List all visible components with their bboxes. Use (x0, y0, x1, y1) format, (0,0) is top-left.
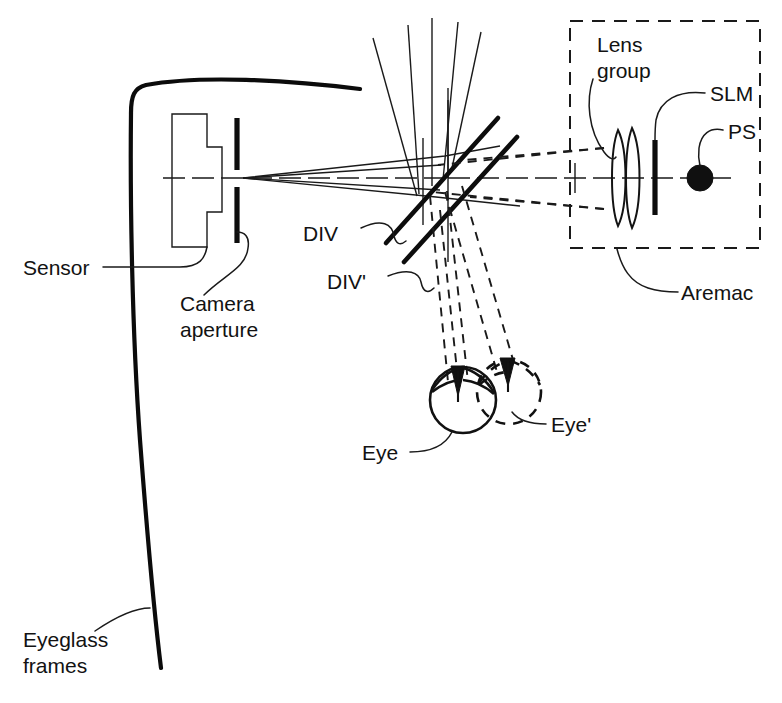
eye-cone-right-edge (447, 191, 468, 382)
eye (430, 367, 496, 433)
label-ps: PS (728, 120, 756, 143)
leader-sensor (103, 247, 207, 267)
eyeglass-frames (131, 79, 360, 668)
optical-diagram-svg: Eyeglass-based aremac and camera optical… (0, 0, 782, 703)
label-aremac: Aremac (681, 281, 753, 304)
label-eye-prime: Eye' (551, 413, 591, 436)
eyeglass-frames-temple (131, 113, 161, 668)
label-camera-aperture-line1: Camera (180, 292, 255, 315)
ps-point-source-dot (687, 165, 713, 191)
label-eyeglass-frames-line1: Eyeglass (23, 628, 108, 651)
figure-root: Eyeglass-based aremac and camera optical… (0, 0, 782, 703)
sensor-outline (172, 114, 222, 247)
div-splitter-plate (386, 118, 498, 243)
text-labels: Sensor Camera aperture Eyeglass frames D… (23, 33, 756, 677)
ps (687, 165, 713, 191)
label-slm: SLM (710, 82, 753, 105)
leader-div-prime (388, 272, 434, 292)
label-sensor: Sensor (23, 256, 90, 279)
eyeprime-cone-right-edge (462, 186, 516, 370)
sensor-block (172, 114, 222, 247)
solid-fan-ray-4 (443, 22, 458, 180)
label-eyeglass-frames-line2: frames (23, 654, 87, 677)
leader-lines (95, 79, 723, 631)
optical-axis (163, 100, 735, 262)
label-lens-group-line2: group (597, 59, 651, 82)
leader-eye (410, 432, 452, 452)
leader-camera-aperture (204, 232, 248, 295)
leader-slm (655, 92, 705, 140)
label-div-prime: DIV' (327, 270, 366, 293)
leader-lens-group (589, 79, 616, 159)
eyeglass-frames-top-rim (131, 79, 360, 113)
label-eye: Eye (362, 441, 398, 464)
label-lens-group-line1: Lens (597, 33, 643, 56)
eye-globe (430, 367, 496, 433)
leader-aremac (617, 249, 678, 292)
dashed-ray-upper-outer (465, 148, 604, 160)
eye-cone-center (440, 210, 458, 380)
leader-ps (699, 129, 723, 166)
label-camera-aperture-line2: aperture (180, 318, 258, 341)
label-div: DIV (303, 222, 338, 245)
solid-fan-ray-5 (452, 32, 481, 168)
